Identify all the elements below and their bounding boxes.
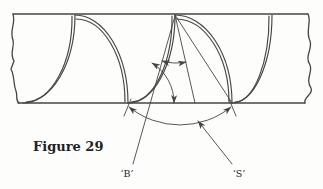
angle-reference-line [175, 15, 195, 103]
pitch-arc-s [129, 107, 231, 125]
flight3-left-inner [235, 16, 269, 102]
flight2-right-inner [176, 19, 229, 102]
label-s: ‘S’ [233, 168, 246, 179]
label-b: ‘B’ [120, 168, 133, 179]
label-s-leader-line [198, 121, 232, 164]
label-b-leader-line [133, 16, 175, 164]
flight1-right-inner [76, 19, 125, 102]
right-break-edge [305, 14, 312, 103]
flight-chord-line [175, 15, 232, 103]
flight2-left-inner [131, 16, 172, 102]
auger-flight-diagram: Figure 29 ‘B’ ‘S’ [0, 0, 323, 189]
left-break-edge [11, 14, 19, 103]
figure-caption: Figure 29 [33, 139, 103, 154]
flight1-right-outer [75, 15, 128, 103]
flight1-left-inner [26, 16, 72, 102]
annotations [124, 15, 236, 164]
figure-29-diagram: Figure 29 ‘B’ ‘S’ [0, 0, 323, 189]
helical-flights [23, 15, 272, 103]
